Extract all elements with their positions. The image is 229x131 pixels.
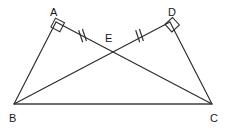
segment-BA bbox=[14, 22, 56, 104]
geometry-figure: A B C D E bbox=[0, 0, 229, 131]
segment-DC bbox=[170, 22, 212, 104]
figure-canvas bbox=[0, 0, 229, 131]
vertex-label-E: E bbox=[105, 33, 112, 44]
vertex-label-C: C bbox=[210, 113, 218, 124]
right-angle-D bbox=[165, 18, 179, 32]
vertex-label-D: D bbox=[168, 7, 176, 18]
vertex-label-A: A bbox=[50, 7, 57, 18]
segment-BD bbox=[14, 22, 170, 104]
vertex-label-B: B bbox=[9, 113, 16, 124]
segment-AC bbox=[56, 22, 212, 104]
tick-DE bbox=[136, 29, 144, 42]
